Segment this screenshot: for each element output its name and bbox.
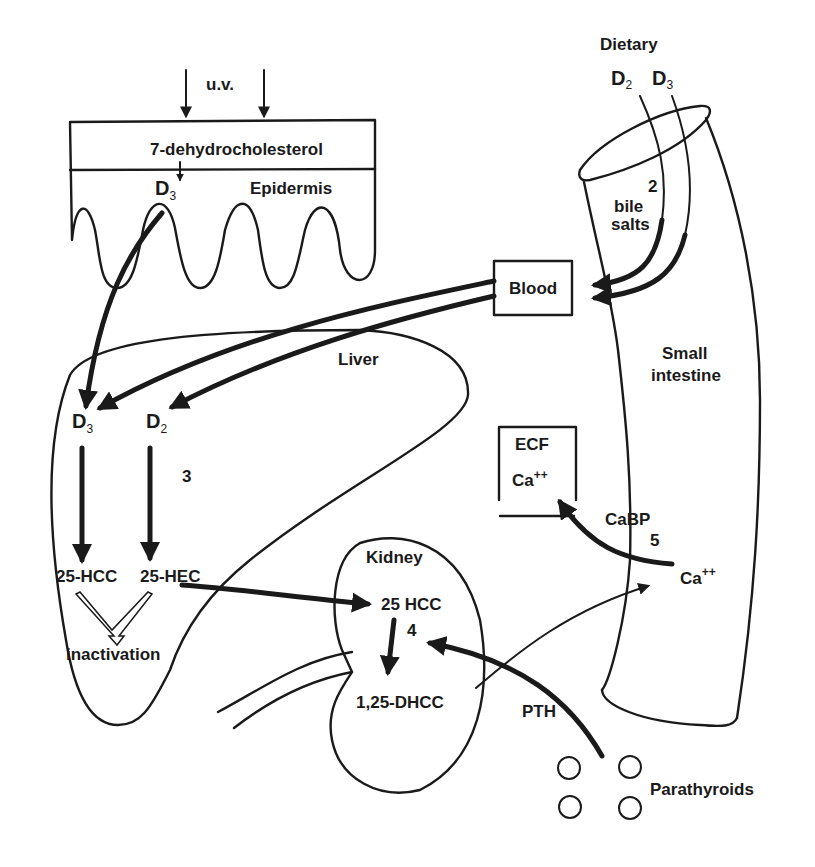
ureter-upper (218, 652, 352, 712)
small-intestine-outline (579, 106, 710, 180)
epidermis-d3-label: D3 (155, 177, 176, 203)
small-intestine-left-wall (584, 182, 630, 690)
step-4-label: 4 (407, 621, 417, 640)
parathyroid-gland-icon (558, 757, 580, 779)
pth-label: PTH (522, 702, 556, 721)
intestine-ca-label: Ca++ (680, 565, 716, 588)
25hcc-to-dhcc-arrow-icon (388, 620, 394, 672)
step-3-label: 3 (182, 467, 191, 486)
skin-section: u.v. 7-dehydrocholesterol D3 Epidermis (70, 70, 375, 288)
dehydrocholesterol-label: 7-dehydrocholesterol (150, 140, 323, 159)
25hcc-label: 25-HCC (56, 567, 117, 586)
inactivation-label: inactivation (66, 645, 160, 664)
kidney-25hcc-label: 25 HCC (381, 595, 441, 614)
epidermis-label: Epidermis (250, 179, 332, 198)
dietary-label: Dietary (600, 35, 658, 54)
intestine-label: intestine (651, 366, 721, 385)
small-intestine-bottom (602, 690, 737, 726)
pth-to-kidney-arrow-icon (430, 643, 602, 756)
blood-to-d3-arrow-icon (100, 281, 494, 408)
25hec-label: 25-HEC (140, 567, 200, 586)
salts-label: salts (611, 215, 650, 234)
liver-section: Liver D3 D2 3 25-HCC 25-HEC inactivation (51, 213, 494, 725)
cabp-label: CaBP (605, 510, 650, 529)
ecf-node: ECF Ca++ CaBP 5 Ca++ (499, 427, 716, 588)
blood-node: Blood (494, 261, 572, 315)
vitamin-d-metabolism-diagram: u.v. 7-dehydrocholesterol D3 Epidermis D… (0, 0, 815, 867)
epidermis-divider (70, 169, 375, 170)
small-label: Small (662, 344, 707, 363)
inactivation-arrow-icon (76, 592, 152, 645)
parathyroid-gland-icon (559, 796, 581, 818)
ureter-lower (234, 672, 352, 728)
liver-d2-label: D2 (146, 410, 167, 436)
dietary-d3-label: D3 (652, 67, 673, 92)
kidney-label: Kidney (366, 548, 423, 567)
dhcc-to-intestine-arrow-icon (476, 586, 648, 688)
step-2-label: 2 (648, 177, 657, 196)
parathyroid-gland-icon (619, 797, 641, 819)
uv-label: u.v. (206, 75, 234, 94)
bile-label: bile (614, 197, 643, 216)
25hec-to-kidney-arrow-icon (182, 585, 368, 604)
parathyroid-gland-icon (619, 756, 641, 778)
blood-label: Blood (509, 279, 557, 298)
kidney-outline (331, 538, 485, 792)
liver-label: Liver (338, 350, 379, 369)
parathyroids-section: Parathyroids (558, 756, 754, 819)
ecf-label: ECF (515, 435, 549, 454)
step-5-label: 5 (650, 531, 659, 550)
dietary-d2-label: D2 (611, 67, 632, 92)
ecf-ca-label: Ca++ (512, 468, 548, 490)
dhcc-label: 1,25-DHCC (356, 693, 444, 712)
liver-outline (51, 330, 468, 725)
small-intestine-right-wall (706, 118, 760, 718)
intestine-section: Dietary D2 D3 2 bile salts Small intesti… (579, 35, 760, 726)
kidney-section: Kidney 25 HCC 4 1,25-DHCC PTH (218, 538, 648, 792)
parathyroids-label: Parathyroids (650, 780, 754, 799)
liver-d3-label: D3 (72, 410, 93, 436)
